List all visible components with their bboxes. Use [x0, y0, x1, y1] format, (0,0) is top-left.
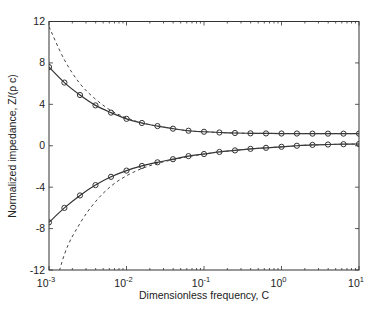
series-line-3	[49, 144, 359, 311]
y-tick-label: -12	[30, 264, 45, 276]
y-tick-label: -4	[36, 181, 45, 193]
series-line-2	[49, 27, 359, 134]
axis-ticks	[49, 22, 359, 271]
y-tick-label: 8	[39, 56, 45, 68]
series-line-0	[49, 67, 359, 134]
y-tick-label: 4	[39, 98, 45, 110]
x-tick-label: 10-3	[37, 275, 55, 289]
y-tick-label: 0	[39, 139, 45, 151]
axes-frame	[49, 22, 359, 271]
impedance-chart: 10-310-210-1100101 12840-4-8-12 Dimensio…	[0, 0, 386, 312]
x-tick-label: 101	[348, 275, 364, 289]
x-tick-labels: 10-310-210-1100101	[37, 275, 364, 289]
series-line-1	[49, 144, 359, 222]
y-tick-label: 12	[33, 15, 45, 27]
y-axis-label: Normalized impedance, Z/(ρ c)	[6, 74, 18, 218]
x-axis-label: Dimensionless frequency, C	[139, 289, 269, 301]
x-tick-label: 10-1	[192, 275, 210, 289]
y-tick-labels: 12840-4-8-12	[30, 15, 45, 276]
x-tick-label: 10-2	[114, 275, 132, 289]
x-tick-label: 100	[271, 275, 287, 289]
y-tick-label: -8	[36, 222, 45, 234]
